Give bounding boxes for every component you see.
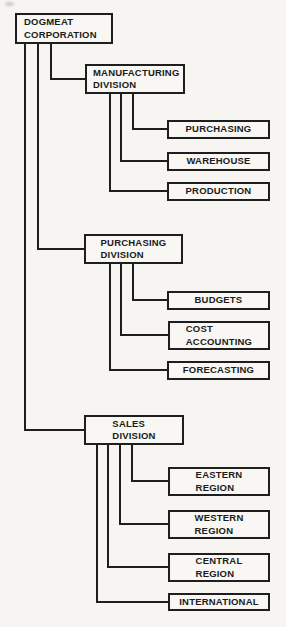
connector-sales-western-region [120, 445, 168, 524]
connector-manufacturing-warehouse [121, 94, 167, 161]
node-budgets: BUDGETS [167, 291, 270, 310]
node-western-region-label: WESTERN REGION [195, 512, 244, 537]
node-forecasting-label: FORECASTING [183, 364, 254, 377]
node-western-region: WESTERN REGION [168, 510, 270, 539]
connector-sales-central-region [108, 445, 168, 567]
connector-root-manufacturing-division [51, 44, 85, 79]
node-warehouse-label: WAREHOUSE [186, 155, 250, 168]
connector-root-sales-division [25, 44, 84, 430]
node-purchasing: PURCHASING [167, 120, 270, 139]
node-international-label: INTERNATIONAL [179, 596, 258, 609]
node-central-region-label: CENTRAL REGION [196, 555, 243, 580]
node-production-label: PRODUCTION [186, 185, 252, 198]
connector-manufacturing-purchasing [133, 94, 167, 129]
node-dogmeat-corporation-label: DOGMEAT CORPORATION [17, 16, 97, 41]
node-purchasing-division-label: PURCHASING DIVISION [101, 237, 167, 262]
node-eastern-region-label: EASTERN REGION [196, 469, 243, 494]
node-sales-division-label: SALES DIVISION [112, 418, 155, 443]
org-chart: DOGMEAT CORPORATION MANUFACTURING DIVISI… [0, 0, 286, 627]
node-manufacturing-division: MANUFACTURING DIVISION [85, 64, 185, 94]
node-production: PRODUCTION [167, 182, 270, 201]
connector-purchasing-budgets [133, 264, 167, 300]
node-warehouse: WAREHOUSE [167, 152, 270, 171]
node-central-region: CENTRAL REGION [168, 553, 270, 582]
connector-manufacturing-production [110, 94, 167, 191]
node-eastern-region: EASTERN REGION [168, 467, 270, 496]
node-sales-division: SALES DIVISION [84, 415, 184, 445]
connector-root-purchasing-division [38, 44, 84, 249]
connector-purchasing-forecasting [110, 264, 167, 370]
node-cost-accounting: COST ACCOUNTING [168, 321, 270, 350]
connector-sales-eastern-region [132, 445, 168, 481]
node-purchasing-division: PURCHASING DIVISION [84, 234, 183, 264]
node-international: INTERNATIONAL [168, 593, 270, 611]
node-manufacturing-division-label: MANUFACTURING DIVISION [87, 67, 180, 92]
node-purchasing-label: PURCHASING [186, 123, 252, 136]
node-budgets-label: BUDGETS [195, 294, 243, 307]
node-dogmeat-corporation: DOGMEAT CORPORATION [15, 13, 113, 44]
node-forecasting: FORECASTING [167, 361, 270, 380]
node-cost-accounting-label: COST ACCOUNTING [186, 323, 252, 348]
